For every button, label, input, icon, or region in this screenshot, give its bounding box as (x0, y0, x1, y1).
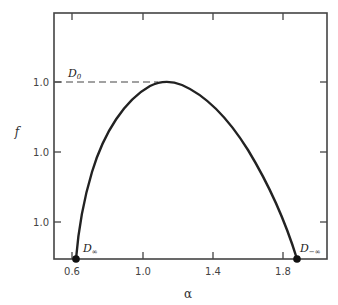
y-axis-label: f (14, 125, 22, 139)
x-axis-label: α (184, 287, 192, 301)
d0-label: D0 (67, 67, 82, 81)
d-inf-label: D∞ (82, 242, 98, 256)
plot-frame (54, 13, 327, 259)
x-tick-label-0.6: 0.6 (64, 266, 80, 277)
f-alpha-chart: 0.6 1.0 1.4 1.8 1.0 1.0 1.0 f α D0 D∞ D−… (0, 0, 338, 305)
x-tick-label-1.4: 1.4 (205, 266, 221, 277)
bottom-ticks (72, 252, 283, 259)
f-alpha-curve (76, 82, 297, 259)
d-neg-inf-label: D−∞ (299, 242, 321, 256)
d-inf-point (72, 255, 80, 263)
left-ticks (54, 82, 61, 222)
d-neg-inf-point (293, 255, 301, 263)
y-tick-label-middle: 1.0 (33, 147, 49, 158)
top-ticks (72, 13, 283, 20)
y-tick-label-top: 1.0 (33, 77, 49, 88)
y-tick-label-bottom: 1.0 (33, 217, 49, 228)
x-tick-label-1.8: 1.8 (275, 266, 291, 277)
x-tick-label-1.0: 1.0 (135, 266, 151, 277)
right-ticks (320, 82, 327, 222)
